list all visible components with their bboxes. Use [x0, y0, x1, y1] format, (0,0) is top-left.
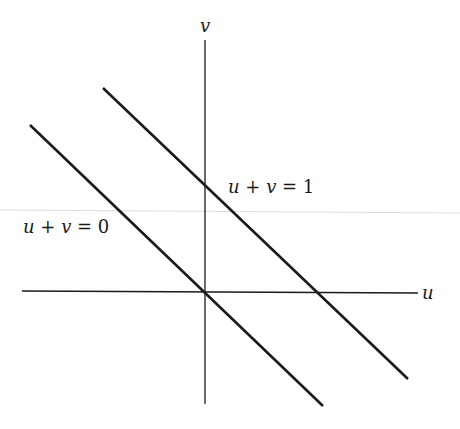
uv-plane-diagram: v u u + v = 0 u + v = 1 — [0, 0, 460, 429]
line-u-plus-v-equals-0 — [30, 125, 323, 406]
u-axis — [22, 291, 418, 293]
u-axis-label: u — [422, 282, 434, 303]
label-u-plus-v-equals-0: u + v = 0 — [23, 216, 109, 237]
label-u-plus-v-equals-1: u + v = 1 — [228, 176, 314, 197]
line-u-plus-v-equals-1 — [103, 88, 408, 379]
v-axis-label: v — [200, 15, 210, 36]
